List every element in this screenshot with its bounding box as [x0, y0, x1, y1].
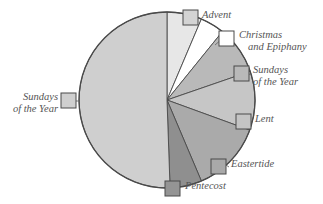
swatch-christmas[interactable]: [219, 31, 234, 46]
label-christmas-line1: Christmas: [239, 29, 307, 41]
label-advent-text: Advent: [202, 9, 231, 20]
label-sundays-left-line1: Sundays: [9, 91, 58, 103]
label-eastertide: Eastertide: [231, 158, 274, 170]
label-christmas-line2: and Epiphany: [248, 41, 307, 53]
swatch-pentecost[interactable]: [165, 181, 180, 196]
swatch-eastertide[interactable]: [211, 159, 226, 174]
label-sundays-right-line1: Sundays: [253, 64, 298, 76]
swatch-lent[interactable]: [236, 114, 251, 129]
label-pentecost-text: Pentecost: [185, 180, 226, 191]
label-sundays-of-the-year-right: Sundays of the Year: [253, 64, 298, 87]
pie-chart-figure: Advent Christmas and Epiphany Sundays of…: [0, 0, 323, 204]
label-lent-text: Lent: [255, 113, 274, 124]
label-sundays-left-line2: of the Year: [0, 103, 58, 115]
label-christmas-and-epiphany: Christmas and Epiphany: [239, 29, 307, 52]
label-lent: Lent: [255, 113, 274, 125]
label-sundays-right-line2: of the Year: [253, 76, 298, 88]
pie-slice-sundays-of-the-year-main[interactable]: [79, 12, 170, 188]
swatch-advent[interactable]: [183, 10, 198, 25]
swatch-sundays-left[interactable]: [61, 93, 76, 108]
swatch-sundays-right[interactable]: [234, 66, 249, 81]
label-sundays-of-the-year-left: Sundays of the Year: [9, 91, 58, 114]
label-pentecost: Pentecost: [185, 180, 226, 192]
label-advent: Advent: [202, 9, 231, 21]
label-eastertide-text: Eastertide: [231, 158, 274, 169]
